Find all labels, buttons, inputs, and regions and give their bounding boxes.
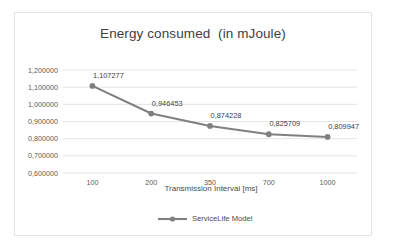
x-axis-tick-label: 100 (86, 178, 98, 187)
data-point-marker (266, 131, 272, 137)
gridlines-group (63, 70, 357, 173)
y-axis-tick-labels: 1,2000001,1000001,0000000,9000000,800000… (28, 66, 58, 178)
x-axis-title: Transmission Interval [ms] (164, 184, 257, 193)
y-axis-tick-label: 0,600000 (28, 169, 58, 178)
legend-label-servicelife-model: ServiceLife Model (192, 214, 253, 223)
data-point-label: 0,874228 (211, 111, 242, 120)
y-axis-tick-label: 1,100000 (28, 83, 58, 92)
y-axis-tick-label: 1,000000 (28, 100, 58, 109)
chart-legend: ServiceLife Model (158, 214, 253, 223)
x-axis-tick-label: 200 (145, 178, 157, 187)
legend-marker-swatch (170, 216, 175, 221)
data-point-label: 0,946453 (152, 99, 183, 108)
y-axis-tick-label: 0,700000 (28, 151, 58, 160)
x-axis-tick-label: 1000 (320, 178, 336, 187)
data-point-marker (148, 111, 154, 117)
data-point-label: 1,107277 (93, 71, 124, 80)
data-point-label: 0,809947 (328, 122, 359, 131)
data-point-marker (90, 83, 96, 89)
y-axis-tick-label: 0,900000 (28, 117, 58, 126)
data-point-marker (207, 123, 213, 129)
data-point-label: 0,825709 (269, 119, 300, 128)
data-point-labels-group: 1,1072770,9464530,8742280,8257090,809947 (93, 71, 359, 131)
data-point-marker (325, 134, 331, 140)
x-axis-tick-label: 700 (263, 178, 275, 187)
y-axis-tick-label: 0,800000 (28, 134, 58, 143)
chart-container: Energy consumed (in mJoule) 1,2000001,10… (14, 12, 372, 236)
chart-plot-area: 1,2000001,1000001,0000000,9000000,800000… (15, 13, 371, 235)
y-axis-tick-label: 1,200000 (28, 66, 58, 75)
